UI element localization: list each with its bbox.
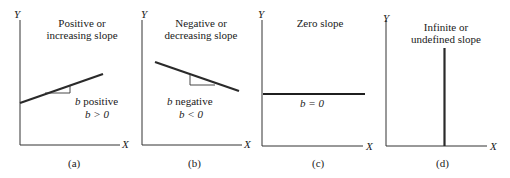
panel-a-y-axis-label: Y [14, 8, 20, 20]
panel-d-title-line1: Infinite or [400, 21, 492, 33]
panel-c-title-line1: Zero slope [285, 17, 355, 29]
panel-b-annotation-inequality: b < 0 [167, 108, 213, 121]
panel-c-title: Zero slope [285, 17, 355, 29]
panel-d-caption: (d) [436, 157, 449, 169]
panel-a-x-axis-label: X [122, 138, 129, 150]
panel-b-title-line2: decreasing slope [155, 29, 247, 41]
panel-a-title-line2: increasing slope [36, 29, 128, 41]
panel-a-annotation: b positive b > 0 [75, 95, 118, 121]
panel-a-title-line1: Positive or [36, 17, 128, 29]
panel-c-x-axis-label: X [366, 140, 373, 152]
panel-d-title-line2: undefined slope [400, 33, 492, 45]
panel-b-title-line1: Negative or [155, 17, 247, 29]
panel-b-title: Negative or decreasing slope [155, 17, 247, 41]
panel-a-annotation-inequality: b > 0 [75, 108, 118, 121]
panel-c-axes [262, 20, 363, 146]
panel-c-y-axis-label: Y [258, 8, 264, 20]
panel-c-graph [262, 20, 365, 146]
panel-b-negative-slope-line [155, 62, 239, 91]
panel-d-x-axis-label: X [490, 140, 497, 152]
panel-b-caption: (b) [188, 157, 201, 169]
panel-c-annotation: b = 0 [300, 97, 324, 110]
panel-b-annotation: b negative b < 0 [167, 95, 213, 121]
panel-a-caption: (a) [68, 157, 80, 169]
panel-a-annotation-text: positive [81, 95, 119, 107]
panel-a-title: Positive or increasing slope [36, 17, 128, 41]
panel-b-x-axis-label: X [244, 138, 251, 150]
panel-b-annotation-text: negative [173, 95, 213, 107]
panel-d-y-axis-label: Y [383, 12, 389, 24]
panel-d-title: Infinite or undefined slope [400, 21, 492, 45]
panel-c-caption: (c) [312, 157, 324, 169]
panel-b-y-axis-label: Y [141, 8, 147, 20]
